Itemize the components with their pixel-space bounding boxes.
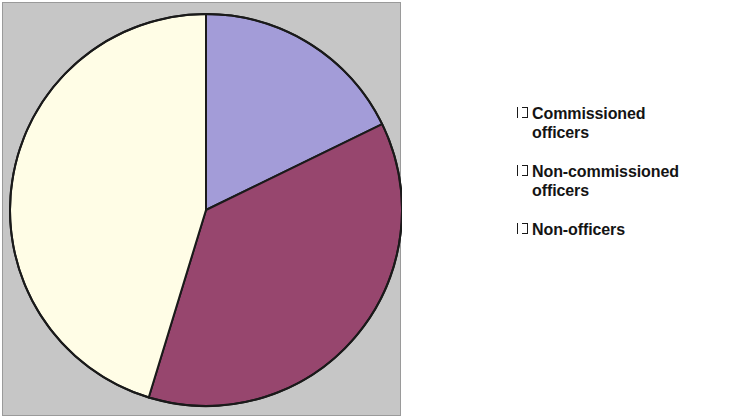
legend-item-commissioned-officers[interactable]: Commissioned officers — [517, 104, 745, 142]
legend-swatch-commissioned-icon — [517, 107, 528, 118]
legend-label-non-officers: Non-officers — [532, 220, 625, 239]
pie-chart-figure: Commissioned officers Non-commissioned o… — [0, 0, 751, 418]
pie-plot-area — [2, 2, 401, 416]
legend-swatch-non-commissioned-icon — [517, 165, 528, 176]
legend-swatch-non-officers-fill — [518, 222, 522, 243]
legend-label-commissioned-officers: Commissioned officers — [532, 104, 646, 142]
legend-label-non-commissioned-officers: Non-commissioned officers — [532, 162, 679, 200]
legend-item-non-commissioned-officers[interactable]: Non-commissioned officers — [517, 162, 745, 200]
legend-swatch-non-commissioned-fill — [518, 164, 522, 185]
pie-svg — [3, 3, 402, 417]
legend-item-non-officers[interactable]: Non-officers — [517, 220, 745, 239]
legend-swatch-commissioned-fill — [518, 106, 522, 127]
legend-swatch-non-officers-icon — [517, 223, 528, 234]
pie-slice-group — [10, 14, 402, 406]
chart-legend: Commissioned officers Non-commissioned o… — [517, 104, 745, 239]
